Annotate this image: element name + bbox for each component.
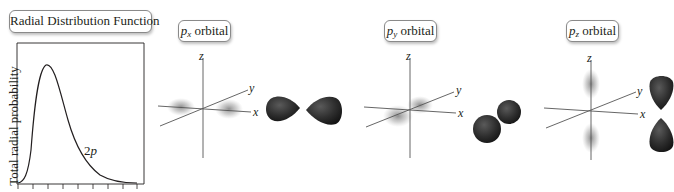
radial-graph: 2p (17, 43, 144, 189)
graph-frame (17, 43, 144, 184)
pz-z-label: z (586, 51, 592, 65)
pz-y-label: y (636, 84, 643, 98)
py-x-label: x (457, 106, 464, 120)
py-lobes (473, 100, 521, 143)
px-y-label: y (248, 81, 255, 95)
curve-label: 2p (84, 143, 98, 158)
px-axes: z y x (158, 49, 259, 158)
py-axes: z y x (364, 49, 464, 158)
px-lobes (266, 96, 342, 124)
pz-axes: z y x (544, 51, 646, 160)
orbital-diagram: 2p z y x z y x z y x (0, 0, 674, 192)
py-y-label: y (455, 83, 462, 97)
py-z-label: z (405, 49, 411, 63)
x-ticks (18, 184, 137, 189)
pz-lobes (649, 76, 673, 152)
px-x-label: x (252, 105, 259, 119)
px-z-label: z (198, 49, 204, 63)
2p-curve (18, 65, 137, 183)
pz-x-label: x (639, 107, 646, 121)
